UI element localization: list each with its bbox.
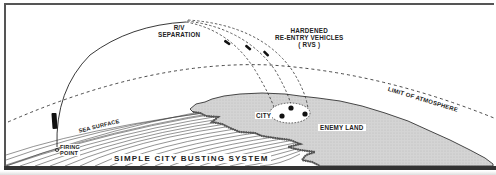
city-label: CITY [255,112,272,119]
impact-marker-icon [288,105,293,110]
missile-icon [51,113,57,129]
impact-marker-icon [279,113,284,118]
reentry-vehicle-icon [224,39,231,45]
hardened-rvs-line1: HARDENED [275,27,343,34]
hardened-rvs-label: HARDENED RE-ENTRY VEHICLES ( RVS ) [275,27,343,48]
rv-separation-label: R/V SEPARATION [158,24,200,38]
hardened-rvs-line2: RE-ENTRY VEHICLES [275,34,343,41]
rv-separation-line2: SEPARATION [158,31,200,38]
firing-point-line2: POINT [60,150,80,156]
diagram-title: SIMPLE CITY BUSTING SYSTEM [112,154,271,163]
firing-point-label: FIRING POINT [60,144,80,156]
enemy-land-label: ENEMY LAND [318,124,366,131]
rv-separation-line1: R/V [158,24,200,31]
hardened-rvs-line3: ( RVS ) [275,41,343,48]
impact-marker-icon [302,111,307,116]
